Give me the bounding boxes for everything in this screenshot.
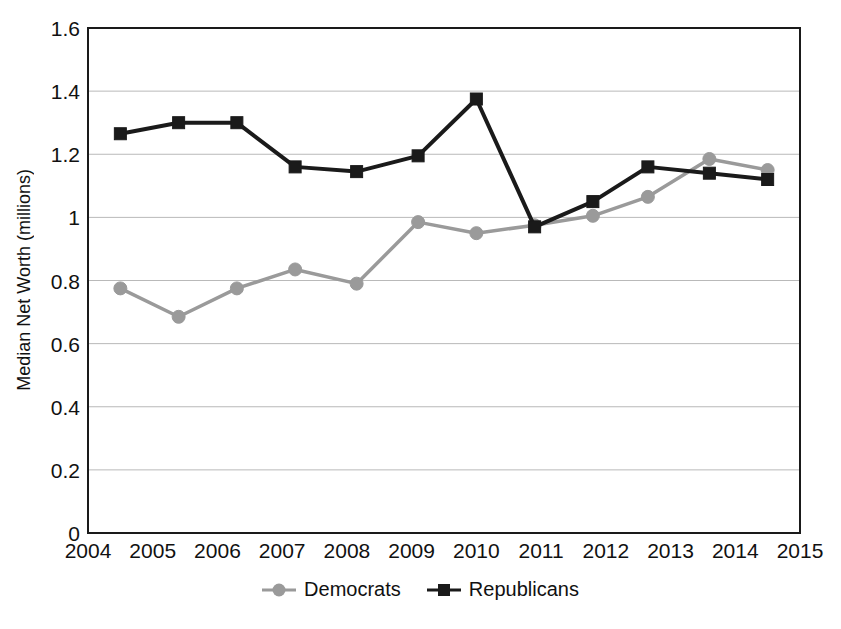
data-point — [172, 310, 185, 323]
data-point — [289, 161, 301, 173]
x-axis-tick-label: 2007 — [259, 540, 306, 561]
data-point — [114, 282, 127, 295]
data-point — [703, 152, 716, 165]
series-line — [120, 99, 767, 227]
x-axis-tick-label: 2009 — [388, 540, 435, 561]
data-point — [231, 117, 243, 129]
data-point — [470, 227, 483, 240]
data-point — [114, 128, 126, 140]
legend-item-republicans: Republicans — [427, 578, 579, 601]
data-point — [641, 190, 654, 203]
x-axis-tick-label: 2015 — [777, 540, 824, 561]
data-point — [351, 166, 363, 178]
x-axis-tick-label: 2005 — [129, 540, 176, 561]
series-democrats — [114, 152, 774, 323]
data-point — [350, 277, 363, 290]
x-axis-tick-label: 2006 — [194, 540, 241, 561]
x-axis-tick-label: 2013 — [647, 540, 694, 561]
data-point — [412, 216, 425, 229]
data-point — [586, 209, 599, 222]
legend-marker-circle-icon — [262, 583, 296, 597]
data-point — [642, 161, 654, 173]
data-point — [762, 174, 774, 186]
data-point — [470, 93, 482, 105]
data-point — [289, 263, 302, 276]
data-point — [587, 196, 599, 208]
plot-area — [0, 0, 841, 629]
x-axis-tick-label: 2012 — [582, 540, 629, 561]
data-point — [173, 117, 185, 129]
x-axis-tick-label: 2008 — [324, 540, 371, 561]
legend-marker-square-icon — [427, 583, 461, 597]
data-point — [703, 167, 715, 179]
chart-legend: Democrats Republicans — [0, 578, 841, 601]
x-axis-tick-label: 2004 — [65, 540, 112, 561]
data-point — [230, 282, 243, 295]
x-axis-tick-label: 2011 — [518, 540, 563, 561]
data-point — [412, 150, 424, 162]
data-point — [529, 221, 541, 233]
legend-item-democrats: Democrats — [262, 578, 401, 601]
series-line — [120, 159, 767, 317]
legend-label-democrats: Democrats — [304, 578, 401, 601]
series-republicans — [114, 93, 773, 233]
x-axis-tick-label: 2010 — [453, 540, 500, 561]
x-axis-tick-label: 2014 — [712, 540, 759, 561]
legend-label-republicans: Republicans — [469, 578, 579, 601]
chart-figure: Median Net Worth (millions) 00.20.40.60.… — [0, 0, 841, 629]
